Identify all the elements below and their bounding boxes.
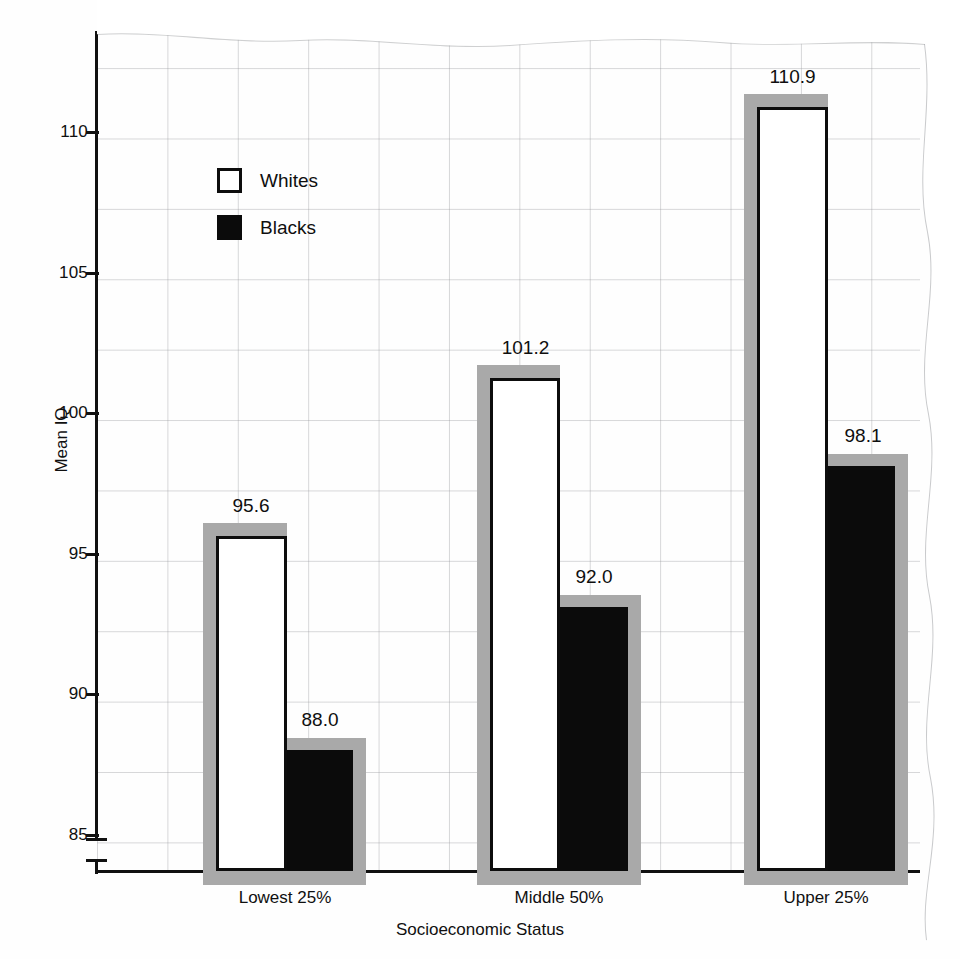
bar-face [287, 750, 353, 871]
bar-shadow-left [477, 365, 490, 871]
y-tick-label-85: 85 [69, 825, 88, 845]
x-category-label-lowest25: Lowest 25% [215, 888, 355, 908]
y-tick-label-95: 95 [69, 544, 88, 564]
bar-face [216, 536, 287, 871]
y-axis-title: Mean IQ [52, 375, 72, 505]
y-tick-label-105: 105 [59, 263, 88, 283]
legend-entry-blacks[interactable]: Blacks [217, 215, 318, 240]
bar-shadow-left [203, 523, 216, 871]
legend: Whites Blacks [217, 168, 318, 262]
bar-blacks-middle50[interactable] [560, 607, 628, 871]
group-base-shadow-upper25 [744, 871, 908, 885]
bar-shadow-right [353, 738, 366, 871]
bar-face [828, 466, 895, 871]
bar-shadow-top [477, 365, 560, 378]
bar-whites-upper25[interactable] [757, 107, 828, 871]
legend-swatch-whites-icon [217, 168, 242, 193]
bar-blacks-upper25[interactable] [828, 466, 895, 871]
bar-value-whites-upper25: 110.9 [740, 66, 845, 88]
bar-whites-middle50[interactable] [490, 378, 560, 871]
bar-face [757, 107, 828, 871]
legend-label-blacks: Blacks [260, 217, 316, 239]
legend-label-whites: Whites [260, 170, 318, 192]
legend-entry-whites[interactable]: Whites [217, 168, 318, 193]
bar-value-whites-middle50: 101.2 [473, 337, 578, 359]
y-tick-label-90: 90 [69, 684, 88, 704]
x-category-label-upper25: Upper 25% [756, 888, 896, 908]
bar-shadow-left [744, 94, 757, 871]
bar-face [490, 378, 560, 871]
bar-value-blacks-middle50: 92.0 [544, 566, 644, 588]
group-base-shadow-middle50 [477, 871, 641, 885]
y-tick-label-110: 110 [60, 122, 88, 142]
bar-value-whites-lowest25: 95.6 [201, 495, 301, 517]
chart-page: 110 105 100 95 90 85 Mean IQ 95.6 88.0 1… [0, 0, 960, 959]
legend-swatch-blacks-icon [217, 215, 242, 240]
group-base-shadow-lowest25 [203, 871, 366, 885]
x-axis-title: Socioeconomic Status [0, 920, 960, 940]
bar-shadow-top [203, 523, 287, 536]
axis-break-lower-cap [86, 859, 107, 862]
bar-value-blacks-lowest25: 88.0 [270, 709, 370, 731]
x-category-label-middle50: Middle 50% [489, 888, 629, 908]
bar-shadow-right [895, 454, 908, 871]
bar-shadow-right [628, 595, 641, 871]
bar-shadow-top [744, 94, 828, 107]
bar-value-blacks-upper25: 98.1 [813, 425, 913, 447]
y-axis-line [95, 31, 98, 840]
bar-blacks-lowest25[interactable] [287, 750, 353, 871]
bar-whites-lowest25[interactable] [216, 536, 287, 871]
axis-break-upper-cap [86, 838, 107, 841]
bar-face [560, 607, 628, 871]
